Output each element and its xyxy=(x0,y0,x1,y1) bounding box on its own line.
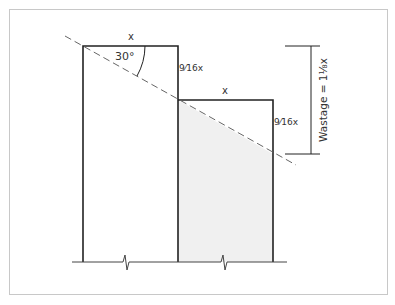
left-block xyxy=(83,46,178,262)
angle-arc xyxy=(137,46,145,76)
stepped-cut-diagram xyxy=(0,0,395,305)
angle-label: 30° xyxy=(115,51,135,62)
step-height-label-1: 9⁄16x xyxy=(179,64,203,73)
step-height-label-2: 9⁄16x xyxy=(274,118,298,127)
top-width-label: x xyxy=(128,32,134,42)
shaded-region xyxy=(178,100,273,262)
lower-width-label: x xyxy=(222,86,228,96)
wastage-label: Wastage = 1⅛x xyxy=(318,58,329,142)
